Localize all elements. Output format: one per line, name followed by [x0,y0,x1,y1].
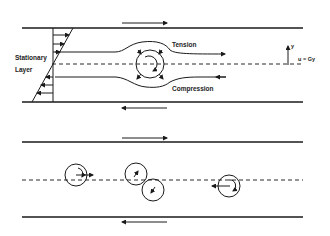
stationary-label-line1: Stationary [15,54,47,62]
shear-flow-diagram: Stationary Layer Tension Compression y u… [0,0,330,236]
compression-label: Compression [172,85,214,93]
velocity-profile [32,28,73,102]
top-panel: Stationary Layer Tension Compression y u… [15,23,316,108]
stationary-label-line2: Layer [15,66,33,74]
bottom-panel [22,138,303,222]
particle-3 [142,179,164,201]
velocity-formula: u = Gy [298,56,316,62]
y-axis-label: y [291,43,295,49]
particle-2 [125,163,147,185]
particle-1 [65,164,93,186]
particle-4 [212,175,240,197]
tension-label: Tension [172,41,196,48]
